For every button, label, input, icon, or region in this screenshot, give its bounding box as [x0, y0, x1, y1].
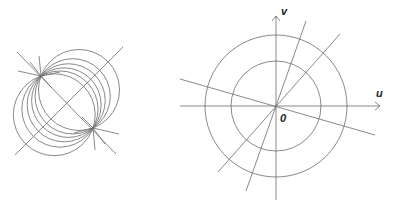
coaxial-circle — [13, 74, 95, 156]
coaxial-circle — [22, 71, 98, 147]
coaxial-circle — [39, 49, 120, 130]
coaxial-circle — [32, 64, 106, 138]
ray-line-1 — [180, 79, 375, 135]
right-figure: v u 0 — [180, 5, 383, 200]
diagram-canvas: v u 0 — [0, 0, 395, 208]
v-axis-label: v — [281, 5, 288, 17]
u-axis-label: u — [376, 87, 383, 99]
left-figure — [13, 47, 123, 156]
coaxial-circle — [35, 59, 110, 134]
origin-label: 0 — [280, 112, 287, 124]
